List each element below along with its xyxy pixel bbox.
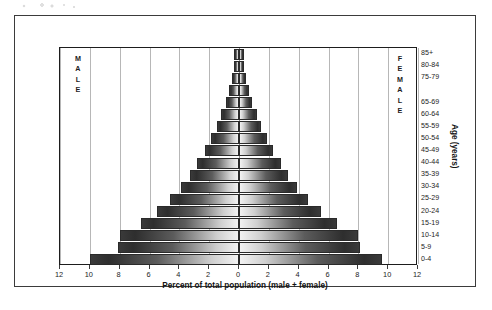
male-panel-label: MALE	[72, 54, 84, 96]
x-axis-tick-label: 4	[176, 270, 180, 279]
figure-frame: MALE FEMALE 12108642024681012 Percent of…	[14, 15, 476, 287]
bar-male	[217, 121, 239, 132]
bar-female	[239, 242, 360, 253]
bar-row	[60, 48, 416, 60]
bar-row	[60, 145, 416, 157]
age-group-label: 20-24	[421, 207, 439, 215]
bar-female	[239, 170, 288, 181]
bar-female	[239, 230, 358, 241]
x-axis-tick-label: 2	[266, 270, 270, 279]
bar-female	[239, 109, 257, 120]
population-pyramid-plot: MALE FEMALE	[59, 47, 417, 265]
bar-female	[239, 61, 244, 72]
bar-male	[226, 97, 239, 108]
bar-row	[60, 205, 416, 217]
bar-male	[197, 158, 239, 169]
bar-female	[239, 218, 337, 229]
bar-female	[239, 194, 308, 205]
bar-row	[60, 193, 416, 205]
bar-male	[141, 218, 239, 229]
panel-label-letter: L	[394, 96, 406, 106]
bar-row	[60, 96, 416, 108]
bar-female	[239, 97, 252, 108]
x-axis-tick	[178, 265, 179, 269]
panel-label-letter: M	[72, 54, 84, 64]
bar-female	[239, 158, 281, 169]
bar-female	[239, 182, 297, 193]
bar-male	[190, 170, 239, 181]
x-axis-tick	[417, 265, 418, 269]
panel-label-letter: M	[394, 75, 406, 85]
age-group-label: 50-54	[421, 134, 439, 142]
age-group-label: 15-19	[421, 219, 439, 227]
age-group-label: 85+	[421, 49, 433, 57]
bar-row	[60, 133, 416, 145]
bar-male	[118, 242, 239, 253]
panel-label-letter: E	[72, 85, 84, 95]
x-axis-tick	[268, 265, 269, 269]
x-axis-tick	[357, 265, 358, 269]
x-axis-tick-label: 6	[325, 270, 329, 279]
scan-noise-artifact	[18, 2, 78, 10]
bar-row	[60, 230, 416, 242]
x-axis-tick	[119, 265, 120, 269]
bar-row	[60, 109, 416, 121]
x-axis-tick-label: 8	[117, 270, 121, 279]
bar-male	[229, 85, 239, 96]
age-group-label: 35-39	[421, 170, 439, 178]
bar-row	[60, 242, 416, 254]
x-axis-tick-label: 10	[85, 270, 93, 279]
x-axis-title: Percent of total population (male + fema…	[15, 281, 475, 290]
age-group-label: 5-9	[421, 243, 431, 251]
x-axis-tick-label: 0	[236, 270, 240, 279]
bar-female	[239, 121, 261, 132]
age-group-label: 75-79	[421, 73, 439, 81]
bar-male	[120, 230, 239, 241]
panel-label-letter: E	[394, 64, 406, 74]
bar-male	[205, 145, 239, 156]
panel-label-letter: F	[394, 54, 406, 64]
bar-male	[157, 206, 239, 217]
bar-row	[60, 121, 416, 133]
x-axis-tick	[238, 265, 239, 269]
y-axis-title: Age (years)	[450, 124, 459, 169]
x-axis-tick	[89, 265, 90, 269]
x-axis-tick	[149, 265, 150, 269]
bar-female	[239, 85, 249, 96]
bar-female	[239, 254, 382, 265]
age-group-label: 30-34	[421, 182, 439, 190]
x-axis-tick-label: 4	[296, 270, 300, 279]
x-axis-tick	[387, 265, 388, 269]
age-group-label: 65-69	[421, 98, 439, 106]
bar-row	[60, 157, 416, 169]
bar-male	[221, 109, 239, 120]
bar-male	[211, 133, 239, 144]
bar-row	[60, 218, 416, 230]
x-axis-tick-label: 12	[55, 270, 63, 279]
age-group-label: 0-4	[421, 255, 431, 263]
x-axis-tick-label: 8	[355, 270, 359, 279]
female-panel-label: FEMALE	[394, 54, 406, 116]
x-axis-tick	[328, 265, 329, 269]
bar-row	[60, 169, 416, 181]
x-axis-tick-label: 2	[206, 270, 210, 279]
age-group-label: 25-29	[421, 194, 439, 202]
panel-label-letter: L	[72, 75, 84, 85]
bar-male	[232, 73, 239, 84]
x-axis-tick	[208, 265, 209, 269]
x-axis-tick-label: 6	[146, 270, 150, 279]
bar-male	[181, 182, 239, 193]
bar-row	[60, 72, 416, 84]
bar-female	[239, 145, 273, 156]
bar-female	[239, 206, 321, 217]
bar-male	[90, 254, 239, 265]
age-group-label: 80-84	[421, 61, 439, 69]
age-group-label: 40-44	[421, 158, 439, 166]
bar-row	[60, 60, 416, 72]
panel-label-letter: A	[72, 64, 84, 74]
x-axis-tick-label: 10	[383, 270, 391, 279]
x-axis-tick	[298, 265, 299, 269]
bar-male	[170, 194, 239, 205]
panel-label-letter: A	[394, 85, 406, 95]
x-axis-tick	[59, 265, 60, 269]
